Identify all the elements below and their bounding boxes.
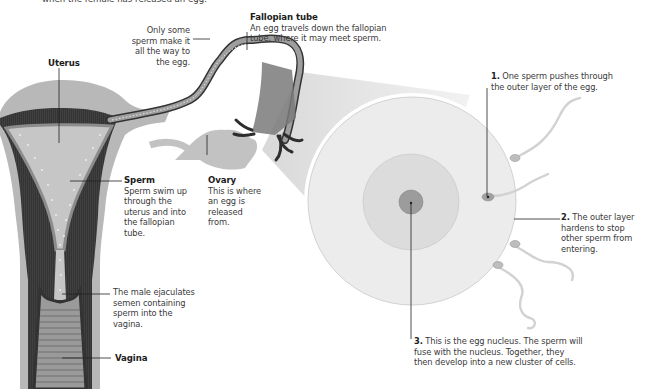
sperm-label: Sperm Sperm swim up through the uterus a… (124, 175, 196, 238)
step-1-label: 1. One sperm pushes through the outer la… (491, 71, 621, 92)
vagina-label: Vagina (115, 353, 147, 364)
fallopian-tube-text: An egg travels down the fallopian tube, … (250, 23, 386, 44)
fertilisation-diagram: when the female has released an egg. Ute… (0, 0, 661, 389)
step-3-text: This is the egg nucleus. The sperm will … (414, 336, 583, 367)
vagina-title: Vagina (115, 353, 147, 364)
uterus-title: Uterus (48, 58, 80, 69)
step-3-label: 3. This is the egg nucleus. The sperm wi… (414, 336, 584, 368)
step-1-number: 1. (491, 71, 500, 81)
sperm-text: Sperm swim up through the uterus and int… (124, 186, 187, 238)
step-2-number: 2. (561, 212, 570, 222)
fallopian-tube-title: Fallopian tube (250, 12, 390, 23)
ovary-text: This is where an egg is released from. (208, 186, 261, 228)
step-2-label: 2. The outer layer hardens to stop other… (561, 212, 645, 254)
uterus-label: Uterus (48, 58, 80, 69)
ejaculation-text: The male ejaculates semen containing spe… (113, 287, 195, 329)
sperm-title: Sperm (124, 175, 196, 186)
ovary-title: Ovary (208, 175, 264, 186)
fallopian-tube-label: Fallopian tube An egg travels down the f… (250, 12, 390, 44)
cropped-caption: when the female has released an egg. (42, 0, 207, 4)
step-2-text: The outer layer hardens to stop other sp… (561, 212, 634, 254)
step-1-text: One sperm pushes through the outer layer… (491, 71, 613, 92)
step-3-number: 3. (414, 336, 423, 346)
only-some-sperm-text: Only some sperm make it all the way to t… (132, 25, 190, 67)
ovary-label: Ovary This is where an egg is released f… (208, 175, 264, 228)
ejaculation-label: The male ejaculates semen containing spe… (113, 287, 203, 329)
diagram-artwork (0, 0, 661, 389)
only-some-sperm-label: Only some sperm make it all the way to t… (120, 25, 190, 67)
